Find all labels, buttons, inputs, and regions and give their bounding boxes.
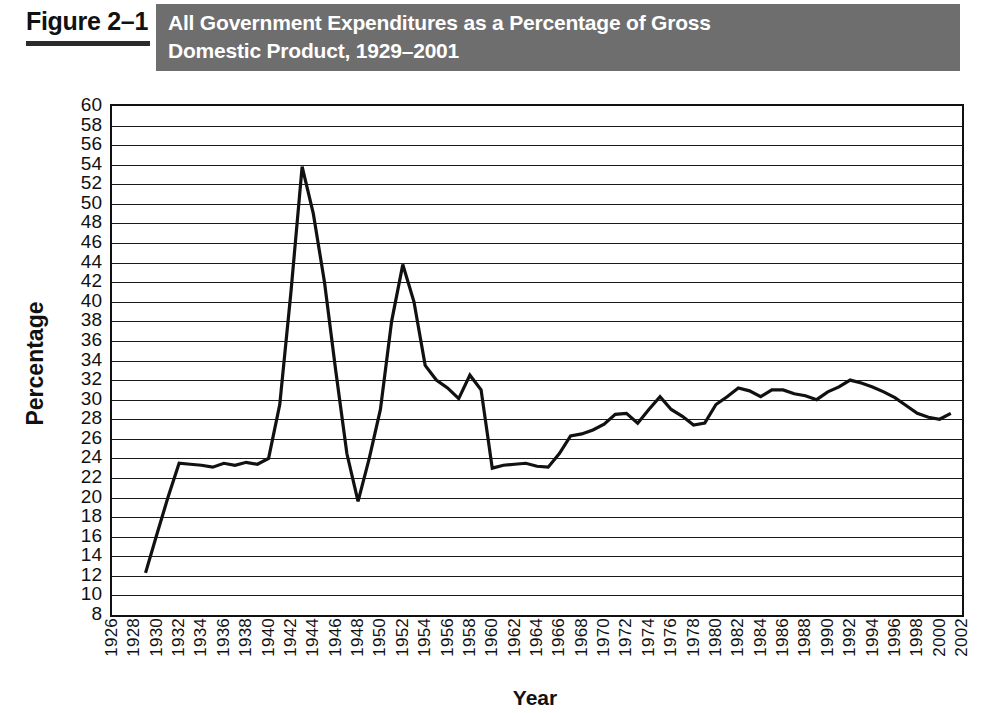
x-axis-tick: 1934 [191,618,211,657]
x-axis-tick: 1940 [259,618,279,657]
x-axis-tick: 1956 [438,618,458,657]
x-axis-tick: 1946 [326,618,346,657]
y-axis-tick: 22 [58,467,102,486]
x-axis-tick: 1990 [818,618,838,657]
x-axis-tick: 1974 [639,618,659,657]
x-axis-tick: 1968 [572,618,592,657]
y-axis-tick: 36 [58,330,102,349]
x-axis-tick: 2000 [930,618,950,657]
chart-region: Percentage 81012141618202224262830323436… [0,80,991,713]
y-axis-tick: 12 [58,565,102,584]
x-axis-tick: 1998 [907,618,927,657]
figure-title-bar: All Government Expenditures as a Percent… [156,4,960,71]
y-axis-tick-labels: 8101214161820222426283032343638404244464… [46,104,102,613]
data-series-line [112,106,962,615]
y-axis-tick: 30 [58,389,102,408]
y-axis-tick: 42 [58,271,102,290]
y-axis-tick: 48 [58,212,102,231]
x-axis-tick: 1950 [370,618,390,657]
plot-area [110,104,964,617]
figure-number-underline [26,41,150,46]
y-axis-tick: 56 [58,134,102,153]
x-axis-tick: 1982 [728,618,748,657]
x-axis-tick: 1976 [661,618,681,657]
x-axis-tick: 1996 [885,618,905,657]
x-axis-tick: 1952 [393,618,413,657]
x-axis-tick: 2002 [952,618,972,657]
x-axis-tick: 1932 [169,618,189,657]
x-axis-tick: 1964 [527,618,547,657]
x-axis-tick: 1994 [863,618,883,657]
x-axis-tick: 1942 [281,618,301,657]
y-axis-tick: 20 [58,487,102,506]
y-axis-tick: 44 [58,252,102,271]
y-axis-label: Percentage [22,274,49,454]
y-axis-tick: 50 [58,193,102,212]
y-axis-tick: 38 [58,310,102,329]
x-axis-tick: 1958 [460,618,480,657]
y-axis-tick: 34 [58,350,102,369]
x-axis-tick: 1938 [236,618,256,657]
figure-header: Figure 2–1 All Government Expenditures a… [0,0,991,80]
x-axis-tick: 1960 [482,618,502,657]
figure-title-line-1: All Government Expenditures as a Percent… [168,9,960,37]
figure-number: Figure 2–1 [26,7,176,36]
x-axis-tick: 1928 [124,618,144,657]
y-axis-tick: 60 [58,95,102,114]
x-axis-tick: 1986 [773,618,793,657]
x-axis-tick: 1954 [415,618,435,657]
y-axis-tick: 18 [58,506,102,525]
x-axis-tick: 1926 [102,618,122,657]
y-axis-tick: 58 [58,115,102,134]
x-axis-tick: 1970 [594,618,614,657]
y-axis-tick: 32 [58,369,102,388]
y-axis-tick: 8 [58,604,102,623]
x-axis-tick: 1948 [348,618,368,657]
y-axis-tick: 26 [58,428,102,447]
x-axis-tick: 1962 [505,618,525,657]
x-axis-tick: 1930 [147,618,167,657]
x-axis-tick: 1978 [684,618,704,657]
x-axis-tick: 1944 [303,618,323,657]
y-axis-tick: 28 [58,408,102,427]
y-axis-tick: 16 [58,526,102,545]
figure-title-line-2: Domestic Product, 1929–2001 [168,37,960,65]
y-axis-tick: 24 [58,447,102,466]
x-axis-tick: 1966 [549,618,569,657]
x-axis-tick: 1972 [616,618,636,657]
y-axis-tick: 10 [58,584,102,603]
x-axis-tick: 1984 [751,618,771,657]
x-axis-tick: 1988 [795,618,815,657]
x-axis-label: Year [110,686,960,710]
x-axis-tick: 1992 [840,618,860,657]
x-axis-tick: 1936 [214,618,234,657]
y-axis-tick: 14 [58,545,102,564]
x-axis-tick: 1980 [706,618,726,657]
y-axis-tick: 52 [58,173,102,192]
y-axis-tick: 40 [58,291,102,310]
y-axis-tick: 46 [58,232,102,251]
y-axis-tick: 54 [58,154,102,173]
